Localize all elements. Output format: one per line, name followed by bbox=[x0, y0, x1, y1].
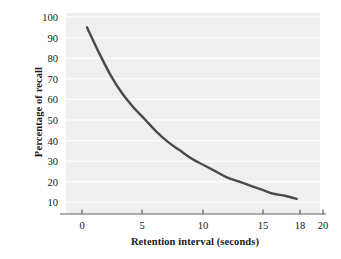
y-tick-label-100: 100 bbox=[18, 12, 58, 23]
recall-curve bbox=[87, 27, 297, 199]
x-tick-label-5: 5 bbox=[127, 220, 157, 231]
x-tick-label-10: 10 bbox=[188, 220, 218, 231]
x-axis-title: Retention interval (seconds) bbox=[66, 236, 324, 247]
y-tick-label-10: 10 bbox=[18, 197, 58, 208]
x-tick-label-20: 20 bbox=[308, 220, 338, 231]
forgetting-curve-chart: 100 90 80 70 60 50 40 30 20 10 0 5 10 15… bbox=[0, 0, 341, 259]
plot-area bbox=[66, 13, 320, 213]
gridlines bbox=[66, 17, 320, 202]
y-axis-title: Percentage of recall bbox=[31, 27, 47, 197]
x-tick-label-15: 15 bbox=[248, 220, 278, 231]
x-tick-label-0: 0 bbox=[67, 220, 97, 231]
